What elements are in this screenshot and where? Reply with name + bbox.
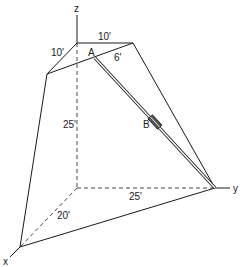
leg-left: [20, 74, 47, 247]
x-axis: [10, 247, 20, 257]
diagram-canvas: z y x 10' 10' 6' 25' 25' 20' A B: [0, 0, 245, 267]
dim-y-span: 25': [129, 191, 142, 202]
point-b-label: B: [143, 119, 150, 130]
point-a-label: A: [88, 47, 95, 58]
dim-top-back: 10': [98, 31, 111, 42]
dim-height: 25': [63, 119, 76, 130]
dim-x-span: 20': [57, 210, 70, 221]
collar-b: [148, 115, 162, 129]
base-edge: [20, 188, 215, 247]
y-axis-label: y: [233, 183, 238, 194]
dim-a-offset: 6': [114, 52, 122, 63]
x-axis-label: x: [3, 256, 8, 267]
dim-top-left: 10': [51, 47, 64, 58]
z-axis-label: z: [74, 3, 79, 14]
leg-right: [133, 43, 215, 188]
